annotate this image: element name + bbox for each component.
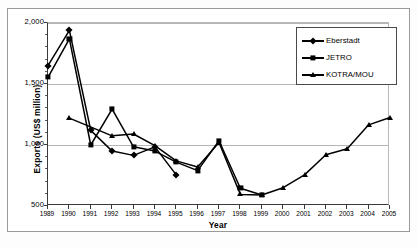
y-tick-label: 1,500 xyxy=(24,78,44,87)
x-tick-mark xyxy=(133,205,134,209)
x-tick-label: 1993 xyxy=(125,210,139,217)
data-point-marker xyxy=(45,75,50,80)
x-tick-mark xyxy=(47,205,48,209)
x-tick-mark xyxy=(325,205,326,209)
legend-label: KOTRA/MOU xyxy=(326,70,374,79)
legend-label: Eberstadt xyxy=(326,36,360,45)
x-tick-label: 1999 xyxy=(254,210,268,217)
x-tick-mark xyxy=(304,205,305,209)
series-line-kotra-mou xyxy=(69,118,390,195)
data-point-marker xyxy=(66,115,72,120)
x-tick-label: 2001 xyxy=(296,210,310,217)
data-point-marker xyxy=(280,185,286,190)
x-tick-mark xyxy=(239,205,240,209)
y-tick-label: 1,000 xyxy=(24,139,44,148)
data-point-marker xyxy=(195,164,201,169)
x-tick-mark xyxy=(282,205,283,209)
data-point-marker xyxy=(387,115,393,120)
square-marker-icon xyxy=(302,52,324,63)
triangle-marker-icon xyxy=(302,69,324,80)
data-point-marker xyxy=(131,131,137,136)
data-point-marker xyxy=(173,158,179,163)
x-tick-label: 1990 xyxy=(61,210,75,217)
data-point-marker xyxy=(216,140,222,145)
y-axis-tick-labels: 5001,0001,5002,000 xyxy=(0,0,44,249)
x-tick-mark xyxy=(68,205,69,209)
data-point-marker xyxy=(238,186,243,191)
x-tick-mark xyxy=(389,205,390,209)
x-tick-label: 2005 xyxy=(382,210,396,217)
x-tick-label: 1997 xyxy=(211,210,225,217)
x-tick-mark xyxy=(261,205,262,209)
legend-item-eberstadt: Eberstadt xyxy=(302,32,396,49)
x-tick-mark xyxy=(111,205,112,209)
diamond-marker-icon xyxy=(302,35,324,46)
legend-item-jetro: JETRO xyxy=(302,49,396,66)
x-tick-mark xyxy=(90,205,91,209)
data-point-marker xyxy=(67,36,72,41)
x-tick-mark xyxy=(154,205,155,209)
data-point-marker xyxy=(259,192,265,197)
x-tick-label: 2000 xyxy=(275,210,289,217)
x-tick-mark xyxy=(368,205,369,209)
x-tick-label: 1992 xyxy=(104,210,118,217)
x-tick-label: 1994 xyxy=(147,210,161,217)
x-tick-label: 1998 xyxy=(232,210,246,217)
scan-artifact-text xyxy=(215,236,411,246)
legend-item-kotra-mou: KOTRA/MOU xyxy=(302,66,396,83)
series-line-jetro xyxy=(48,39,262,195)
data-point-marker xyxy=(110,106,115,111)
x-tick-mark xyxy=(197,205,198,209)
legend-label: JETRO xyxy=(326,53,352,62)
x-tick-label: 1995 xyxy=(168,210,182,217)
chart-legend: Eberstadt JETRO KOTRA/MOU xyxy=(296,27,397,85)
x-tick-label: 1991 xyxy=(83,210,97,217)
x-tick-label: 2004 xyxy=(360,210,374,217)
data-point-marker xyxy=(131,144,136,149)
data-point-marker xyxy=(323,152,329,157)
data-point-marker xyxy=(109,133,115,138)
x-tick-label: 2002 xyxy=(318,210,332,217)
data-point-marker xyxy=(302,172,308,177)
x-tick-label: 2003 xyxy=(339,210,353,217)
data-point-marker xyxy=(152,143,158,148)
x-tick-mark xyxy=(346,205,347,209)
data-point-marker xyxy=(88,142,93,147)
data-point-marker xyxy=(152,149,157,154)
y-tick-label: 500 xyxy=(31,200,44,209)
x-axis-title: Year xyxy=(47,220,389,230)
x-tick-label: 1996 xyxy=(189,210,203,217)
data-point-marker xyxy=(237,191,243,196)
data-point-marker xyxy=(366,122,372,127)
x-tick-mark xyxy=(175,205,176,209)
y-tick-label: 2,000 xyxy=(24,17,44,26)
chart-figure: Exports (US$ million) 5001,0001,5002,000… xyxy=(0,0,417,249)
x-tick-mark xyxy=(218,205,219,209)
x-tick-label: 1989 xyxy=(40,210,54,217)
data-point-marker xyxy=(344,146,350,151)
